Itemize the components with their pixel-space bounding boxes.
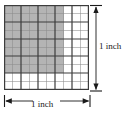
grid-lines (4, 5, 89, 90)
minor-gridlines (4, 5, 89, 90)
vertical-dimension-label: 1 inch (99, 42, 121, 51)
vertical-dim-arrowhead-down (93, 84, 98, 91)
horizontal-dim-arrowhead-right (83, 98, 90, 103)
vertical-dim-arrowhead-up (93, 7, 98, 14)
horizontal-dim-arrowhead-left (5, 98, 12, 103)
horizontal-dimension-label: 1 inch (31, 100, 53, 109)
unit-square-grid-figure: 1 inch 1 inch (0, 0, 128, 122)
grid-container (4, 5, 89, 90)
